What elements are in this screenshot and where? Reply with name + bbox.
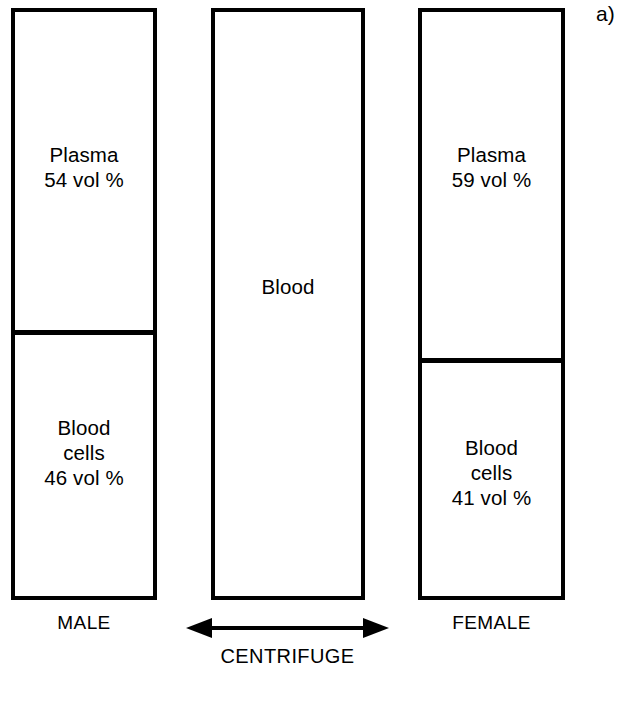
panel-letter: a) bbox=[596, 2, 615, 26]
caption-male: MALE bbox=[11, 612, 157, 634]
caption-female: FEMALE bbox=[418, 612, 565, 634]
male-cells-name-line1: Blood bbox=[15, 415, 153, 440]
male-cells-name-line2: cells bbox=[15, 440, 153, 465]
centrifuge-double-arrow-icon bbox=[186, 616, 389, 640]
female-cells-name-line2: cells bbox=[422, 460, 561, 485]
female-plasma-label: Plasma 59 vol % bbox=[422, 142, 561, 192]
male-plasma-cells-divider bbox=[11, 330, 157, 335]
tube-female: Plasma 59 vol % Blood cells 41 vol % bbox=[418, 8, 565, 600]
female-blood-cells-label: Blood cells 41 vol % bbox=[422, 435, 561, 510]
whole-blood-label: Blood bbox=[215, 274, 361, 299]
whole-blood-name: Blood bbox=[215, 274, 361, 299]
female-cells-value: 41 vol % bbox=[422, 485, 561, 510]
male-plasma-value: 54 vol % bbox=[15, 167, 153, 192]
caption-centrifuge: CENTRIFUGE bbox=[186, 645, 389, 667]
female-plasma-name: Plasma bbox=[422, 142, 561, 167]
tube-male: Plasma 54 vol % Blood cells 46 vol % bbox=[11, 8, 157, 600]
male-blood-cells-label: Blood cells 46 vol % bbox=[15, 415, 153, 490]
female-plasma-value: 59 vol % bbox=[422, 167, 561, 192]
blood-centrifugation-figure: Plasma 54 vol % Blood cells 46 vol % Blo… bbox=[0, 0, 634, 703]
male-plasma-name: Plasma bbox=[15, 142, 153, 167]
female-cells-name-line1: Blood bbox=[422, 435, 561, 460]
tube-whole-blood: Blood bbox=[211, 8, 365, 600]
male-cells-value: 46 vol % bbox=[15, 465, 153, 490]
female-plasma-cells-divider bbox=[418, 358, 565, 363]
male-plasma-label: Plasma 54 vol % bbox=[15, 142, 153, 192]
